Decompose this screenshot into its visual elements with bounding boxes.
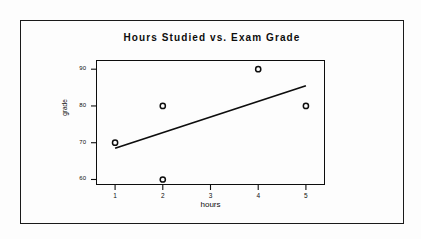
x-axis-tick-label: 3 bbox=[203, 192, 219, 199]
y-axis-title: grade bbox=[61, 93, 68, 123]
plot-graphics bbox=[96, 60, 325, 185]
data-point-marker bbox=[160, 103, 165, 108]
x-axis-tick-label: 5 bbox=[298, 192, 314, 199]
y-axis-tick-label: 70 bbox=[64, 139, 86, 145]
x-axis-tick-label: 4 bbox=[250, 192, 266, 199]
chart-canvas: Hours Studied vs. Exam Grade 60708090 12… bbox=[0, 0, 421, 239]
data-point-marker bbox=[303, 103, 308, 108]
data-point-marker bbox=[112, 140, 117, 145]
trend-line bbox=[115, 86, 306, 149]
y-axis-tick-label: 90 bbox=[64, 65, 86, 71]
x-axis-title: hours bbox=[96, 200, 325, 209]
x-axis-tick-label: 2 bbox=[155, 192, 171, 199]
data-point-marker bbox=[160, 177, 165, 182]
x-axis-tick-label: 1 bbox=[107, 192, 123, 199]
data-point-marker bbox=[256, 67, 261, 72]
page-title: Hours Studied vs. Exam Grade bbox=[20, 32, 404, 43]
y-axis-tick-label: 60 bbox=[64, 175, 86, 181]
